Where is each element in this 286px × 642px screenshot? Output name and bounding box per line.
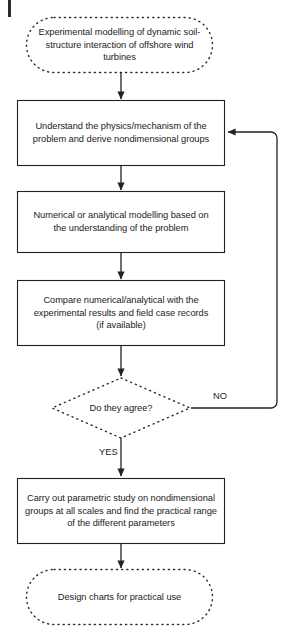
node-parametric-label: Carry out parametric study on nondimensi…	[18, 478, 224, 544]
node-end-label: Design charts for practical use	[26, 569, 213, 625]
node-decision-text: Do they agree?	[90, 402, 153, 415]
node-start-label: Experimental modelling of dynamic soil-s…	[26, 17, 213, 73]
node-decision-label: Do they agree?	[62, 382, 180, 434]
node-understand-label: Understand the physics/mechanism of the …	[20, 100, 222, 166]
edge-label-yes: YES	[99, 447, 118, 458]
node-understand-text: Understand the physics/mechanism of the …	[26, 120, 216, 145]
node-start-text: Experimental modelling of dynamic soil-s…	[32, 26, 207, 64]
node-parametric-text: Carry out parametric study on nondimensi…	[24, 492, 218, 530]
edge-decision-no-to-understand	[191, 132, 277, 408]
node-end-text: Design charts for practical use	[58, 591, 182, 604]
node-compare-text: Compare numerical/analytical with the ex…	[31, 294, 211, 332]
flowchart-canvas: understand (feedback loop, right side) -…	[0, 0, 286, 642]
edge-label-no: NO	[213, 391, 227, 402]
node-model-label: Numerical or analytical modelling based …	[26, 191, 216, 253]
node-compare-label: Compare numerical/analytical with the ex…	[25, 280, 217, 346]
node-model-text: Numerical or analytical modelling based …	[32, 209, 210, 234]
